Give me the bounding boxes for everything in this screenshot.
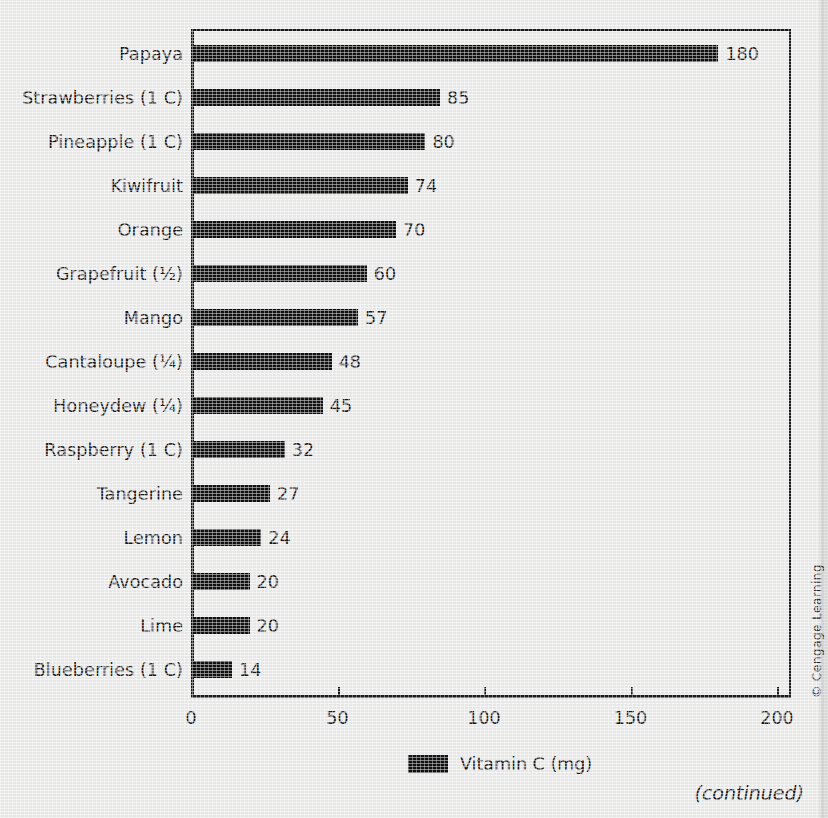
bar [191,573,250,590]
category-label: Avocado [0,572,183,592]
x-axis-tick [484,687,486,698]
continued-note: (continued) [694,782,804,804]
bar-value-label: 80 [432,134,454,151]
bar [191,661,232,678]
category-label: Raspberry (1 C) [0,440,183,460]
bar [191,177,408,194]
bar [191,353,332,370]
category-label: Pineapple (1 C) [0,132,183,152]
x-axis-tick [631,687,633,698]
bar [191,529,261,546]
bar [191,309,358,326]
bar [191,397,323,414]
category-axis-labels: PapayaStrawberries (1 C)Pineapple (1 C)K… [0,29,183,698]
bars-layer: 1808580747060574845322724202014 [191,29,791,698]
bar [191,441,285,458]
bar-value-label: 45 [330,398,352,415]
page-edge-shadow [818,0,828,818]
bar-value-label: 180 [725,46,758,63]
bar-value-label: 14 [239,662,261,679]
bar [191,45,718,62]
category-label: Orange [0,220,183,240]
x-axis-tick [338,687,340,698]
bar [191,133,425,150]
category-label: Papaya [0,44,183,64]
category-label: Lime [0,616,183,636]
x-axis-tick-label: 0 [185,708,196,728]
category-label: Strawberries (1 C) [0,88,183,108]
category-label: Blueberries (1 C) [0,660,183,680]
bar-value-label: 85 [447,90,469,107]
bar-value-label: 74 [415,178,437,195]
x-axis-tick [777,687,779,698]
x-axis-tick-label: 150 [614,708,647,728]
bar-value-label: 20 [257,574,279,591]
copyright-credit: © Cengage Learning [795,556,811,698]
x-axis-tick-label: 50 [326,708,348,728]
legend-swatch-icon [408,755,448,773]
bar [191,617,250,634]
vitamin-c-bar-chart: PapayaStrawberries (1 C)Pineapple (1 C)K… [0,0,828,818]
bar [191,485,270,502]
bar [191,265,367,282]
category-label: Kiwifruit [0,176,183,196]
category-label: Mango [0,308,183,328]
chart-legend: Vitamin C (mg) [408,754,592,774]
bar-value-label: 32 [292,442,314,459]
bar-value-label: 20 [257,618,279,635]
bar-value-label: 24 [268,530,290,547]
category-label: Honeydew (¼) [0,396,183,416]
bar-value-label: 60 [374,266,396,283]
bar-value-label: 48 [339,354,361,371]
category-label: Lemon [0,528,183,548]
category-label: Grapefruit (½) [0,264,183,284]
x-axis: 050100150200 [191,698,791,744]
bar [191,89,440,106]
bar-value-label: 57 [365,310,387,327]
category-label: Cantaloupe (¼) [0,352,183,372]
category-label: Tangerine [0,484,183,504]
bar [191,221,396,238]
bar-value-label: 70 [403,222,425,239]
x-axis-tick-label: 100 [467,708,500,728]
bar-value-label: 27 [277,486,299,503]
x-axis-tick-label: 200 [760,708,793,728]
legend-label: Vitamin C (mg) [460,754,592,774]
